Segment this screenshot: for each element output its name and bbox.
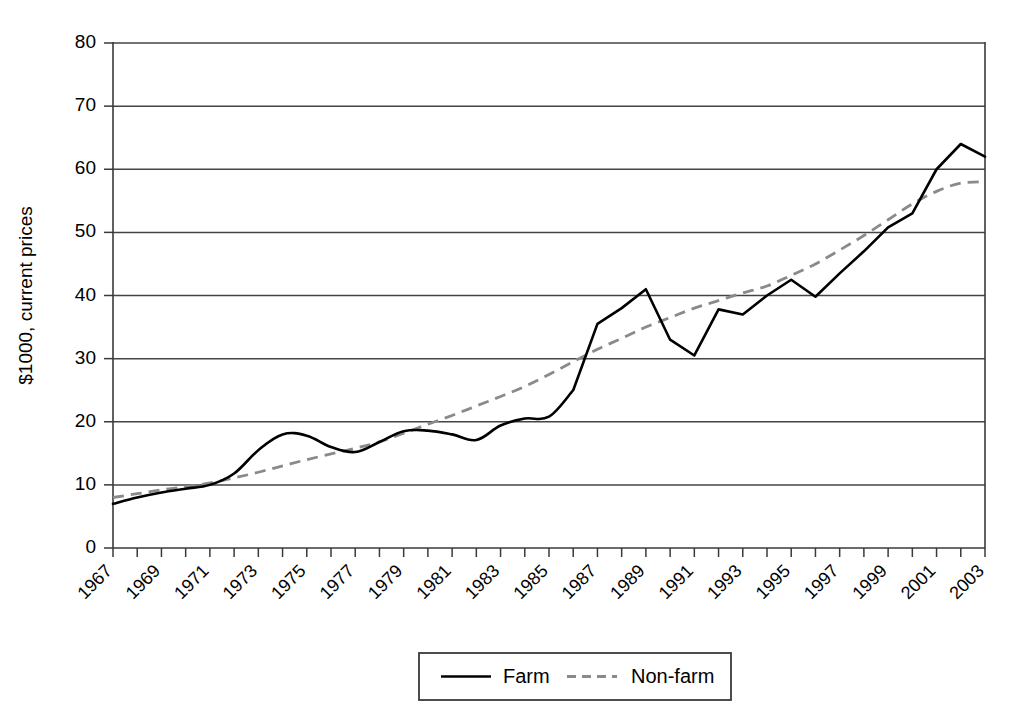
legend: Farm Non-farm xyxy=(419,653,731,700)
y-tick-label-0: 0 xyxy=(85,536,96,557)
x-tick-label-1979: 1979 xyxy=(364,561,406,603)
y-tick-label-70: 70 xyxy=(75,94,96,115)
x-tick-label-1987: 1987 xyxy=(558,561,600,603)
y-tick-label-60: 60 xyxy=(75,157,96,178)
x-tick-label-1995: 1995 xyxy=(752,561,794,603)
chart-container: 01020304050607080 1967196919711973197519… xyxy=(0,0,1014,713)
gridlines-group xyxy=(113,43,985,485)
x-tick-label-1991: 1991 xyxy=(655,561,697,603)
y-axis-ticks-group xyxy=(104,43,113,548)
x-tick-label-1997: 1997 xyxy=(800,561,842,603)
x-tick-label-1993: 1993 xyxy=(703,561,745,603)
x-axis-ticks-group xyxy=(113,548,985,557)
x-tick-label-1975: 1975 xyxy=(267,561,309,603)
x-tick-label-2003: 2003 xyxy=(945,561,987,603)
x-tick-label-2001: 2001 xyxy=(897,561,939,603)
y-tick-label-20: 20 xyxy=(75,410,96,431)
y-axis-tick-labels-group: 01020304050607080 xyxy=(75,31,96,557)
x-tick-label-1973: 1973 xyxy=(219,561,261,603)
x-tick-label-1999: 1999 xyxy=(848,561,890,603)
x-tick-label-1971: 1971 xyxy=(170,561,212,603)
legend-label-non-farm: Non-farm xyxy=(631,665,714,687)
y-tick-label-50: 50 xyxy=(75,220,96,241)
x-tick-label-1967: 1967 xyxy=(73,561,115,603)
x-tick-label-1981: 1981 xyxy=(412,561,454,603)
y-tick-label-40: 40 xyxy=(75,284,96,305)
x-axis-tick-labels-group: 1967196919711973197519771979198119831985… xyxy=(73,561,987,603)
x-tick-label-1969: 1969 xyxy=(122,561,164,603)
x-tick-label-1983: 1983 xyxy=(461,561,503,603)
y-tick-label-10: 10 xyxy=(75,473,96,494)
series-line-non-farm xyxy=(113,182,985,498)
y-axis-title: $1000, current prices xyxy=(15,206,36,385)
x-tick-label-1985: 1985 xyxy=(509,561,551,603)
y-tick-label-30: 30 xyxy=(75,347,96,368)
x-tick-label-1977: 1977 xyxy=(316,561,358,603)
y-tick-label-80: 80 xyxy=(75,31,96,52)
legend-label-farm: Farm xyxy=(503,665,550,687)
line-chart: 01020304050607080 1967196919711973197519… xyxy=(0,0,1014,713)
series-line-farm xyxy=(113,144,985,504)
x-tick-label-1989: 1989 xyxy=(606,561,648,603)
